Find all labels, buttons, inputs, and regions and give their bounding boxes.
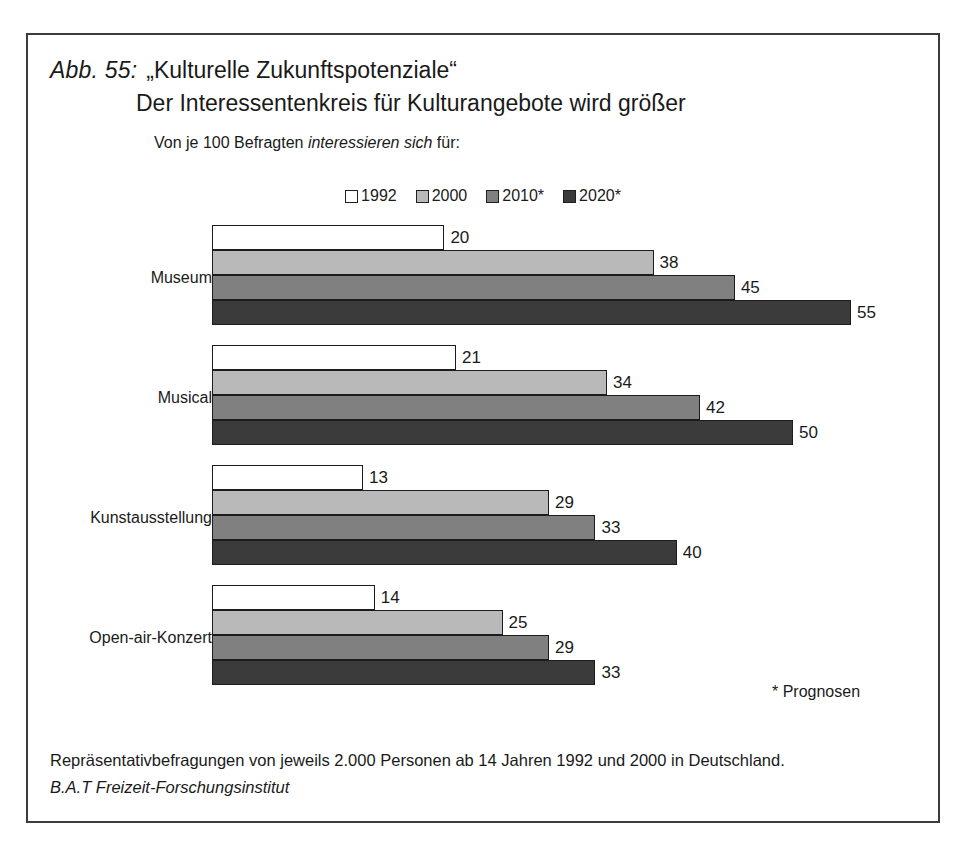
bar-value-label: 25 <box>509 613 528 633</box>
legend-label: 2020* <box>579 187 621 205</box>
figure-header: Abb. 55: „Kulturelle Zukunftspotenziale“… <box>50 55 922 153</box>
bar-row: 14 <box>212 585 938 610</box>
bar-stack: 14252933 <box>212 585 938 690</box>
bar[interactable] <box>212 585 375 610</box>
bar[interactable] <box>212 610 503 635</box>
chart-legend: 199220002010*2020* <box>28 187 938 205</box>
legend-swatch-icon <box>345 190 358 203</box>
bar-row: 33 <box>212 660 938 685</box>
bar-group: Musical21344250 <box>28 345 938 450</box>
figure-title-line-2: Der Interessentenkreis für Kulturangebot… <box>136 88 922 118</box>
footer-source: B.A.T Freizeit-Forschungsinstitut <box>50 776 922 799</box>
bar-group: Museum20384555 <box>28 225 938 330</box>
bar-value-label: 29 <box>555 493 574 513</box>
bar-value-label: 13 <box>369 468 388 488</box>
figure-number: Abb. 55: <box>50 55 137 85</box>
legend-item: 1992 <box>345 187 397 205</box>
subtitle-suffix: für: <box>432 134 460 151</box>
bar-row: 45 <box>212 275 938 300</box>
bar[interactable] <box>212 300 851 325</box>
subtitle-emphasis: interessieren sich <box>308 134 433 151</box>
bar-group: Open-air-Konzert14252933 <box>28 585 938 690</box>
figure-subtitle: Von je 100 Befragten interessieren sich … <box>154 133 922 153</box>
bar-value-label: 45 <box>741 278 760 298</box>
bar-row: 50 <box>212 420 938 445</box>
footer-methodology: Repräsentativbefragungen von jeweils 2.0… <box>50 749 922 772</box>
bar[interactable] <box>212 515 595 540</box>
bar-row: 29 <box>212 490 938 515</box>
bar-stack: 13293340 <box>212 465 938 570</box>
legend-item: 2000 <box>416 187 468 205</box>
legend-item: 2010* <box>486 187 544 205</box>
legend-label: 1992 <box>361 187 397 205</box>
subtitle-prefix: Von je 100 Befragten <box>154 134 308 151</box>
bar[interactable] <box>212 420 793 445</box>
bar-row: 20 <box>212 225 938 250</box>
bar-value-label: 29 <box>555 638 574 658</box>
bar[interactable] <box>212 635 549 660</box>
bar-stack: 21344250 <box>212 345 938 450</box>
bar-row: 42 <box>212 395 938 420</box>
bar-row: 29 <box>212 635 938 660</box>
bar-value-label: 20 <box>450 228 469 248</box>
chart-plot-area: Museum20384555Musical21344250Kunstausste… <box>28 225 938 695</box>
bar[interactable] <box>212 370 607 395</box>
category-label: Kunstausstellung <box>90 509 212 527</box>
bar-value-label: 38 <box>660 253 679 273</box>
category-label: Musical <box>158 389 212 407</box>
bar-value-label: 21 <box>462 348 481 368</box>
bar-row: 33 <box>212 515 938 540</box>
category-label: Open-air-Konzert <box>89 629 212 647</box>
legend-swatch-icon <box>486 190 499 203</box>
bar-value-label: 42 <box>706 398 725 418</box>
bar[interactable] <box>212 345 456 370</box>
bar-row: 21 <box>212 345 938 370</box>
legend-item: 2020* <box>563 187 621 205</box>
bar[interactable] <box>212 395 700 420</box>
figure-title-line-1: Abb. 55: „Kulturelle Zukunftspotenziale“ <box>50 55 922 85</box>
bar-row: 25 <box>212 610 938 635</box>
bar-value-label: 40 <box>683 543 702 563</box>
bar[interactable] <box>212 225 444 250</box>
bar[interactable] <box>212 275 735 300</box>
bar-row: 34 <box>212 370 938 395</box>
legend-swatch-icon <box>563 190 576 203</box>
bar[interactable] <box>212 465 363 490</box>
bar[interactable] <box>212 490 549 515</box>
prognosen-footnote: * Prognosen <box>772 683 860 701</box>
figure-title-text: „Kulturelle Zukunftspotenziale“ <box>146 55 457 85</box>
figure-footer: Repräsentativbefragungen von jeweils 2.0… <box>50 749 922 799</box>
bar-row: 13 <box>212 465 938 490</box>
bar-value-label: 33 <box>601 518 620 538</box>
bar-value-label: 50 <box>799 423 818 443</box>
bar-value-label: 33 <box>601 663 620 683</box>
bar-stack: 20384555 <box>212 225 938 330</box>
legend-label: 2000 <box>432 187 468 205</box>
legend-swatch-icon <box>416 190 429 203</box>
bar-row: 55 <box>212 300 938 325</box>
bar-value-label: 55 <box>857 303 876 323</box>
bar[interactable] <box>212 540 677 565</box>
legend-label: 2010* <box>502 187 544 205</box>
bar-group: Kunstausstellung13293340 <box>28 465 938 570</box>
bar[interactable] <box>212 250 654 275</box>
bar-value-label: 34 <box>613 373 632 393</box>
category-label: Museum <box>151 269 212 287</box>
figure-frame: Abb. 55: „Kulturelle Zukunftspotenziale“… <box>26 33 940 823</box>
bar-value-label: 14 <box>381 588 400 608</box>
bar-row: 40 <box>212 540 938 565</box>
bar-row: 38 <box>212 250 938 275</box>
bar[interactable] <box>212 660 595 685</box>
